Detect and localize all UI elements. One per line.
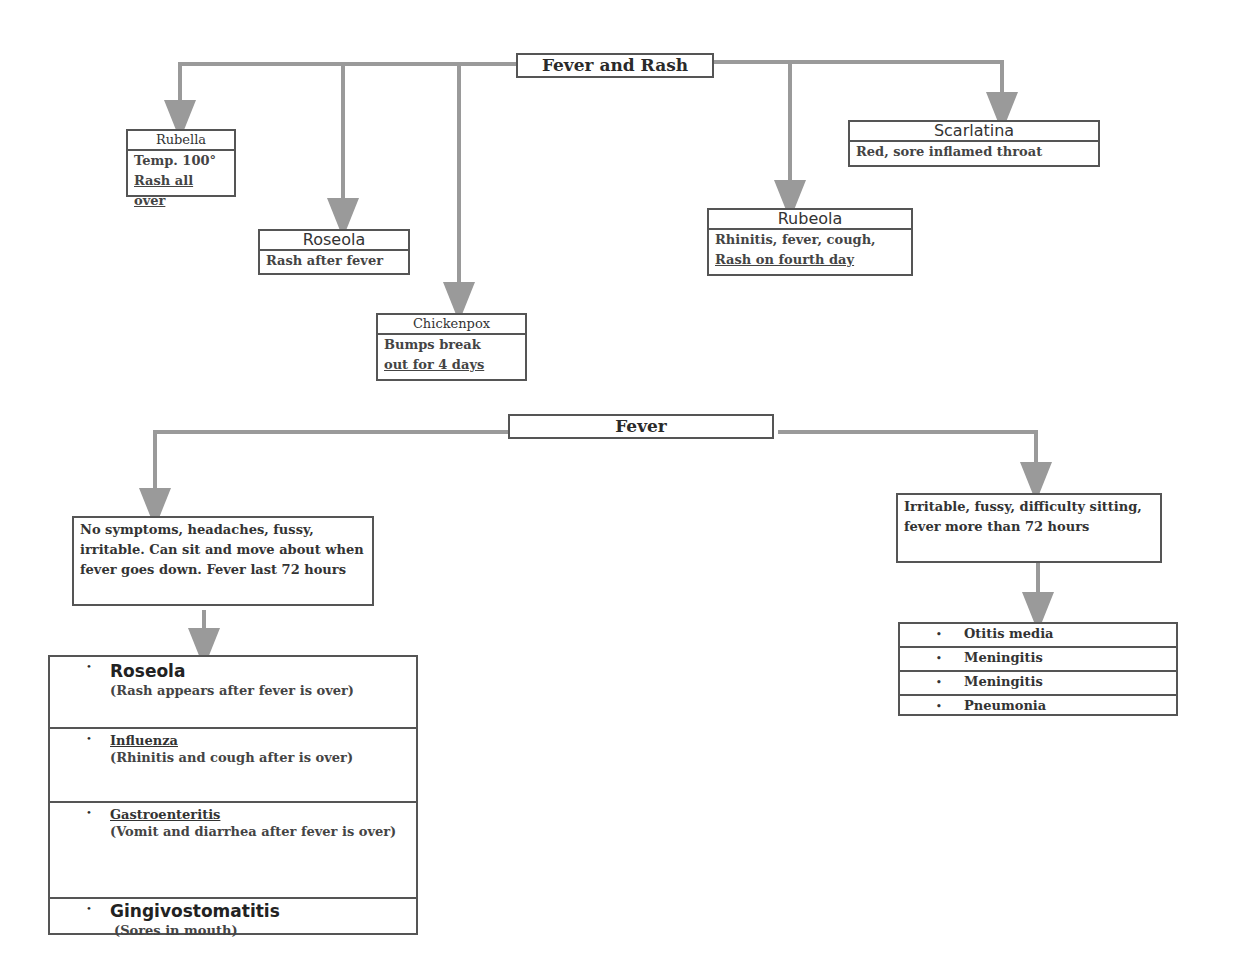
bullet-icon: •: [936, 624, 942, 644]
condition-desc: (Sores in mouth): [86, 921, 410, 941]
list-item: • Influenza (Rhinitis and cough after is…: [50, 729, 416, 803]
bullet-icon: •: [86, 903, 92, 914]
node-line: Red, sore inflamed throat: [850, 142, 1098, 162]
severe-fever-conditions-list: •Otitis media •Meningitis •Meningitis •P…: [898, 622, 1178, 716]
list-item: • Gastroenteritis (Vomit and diarrhea af…: [50, 803, 416, 899]
rubeola-node: Rubeola Rhinitis, fever, cough, Rash on …: [707, 208, 913, 276]
description-text: Irritable, fussy, difficulty sitting, fe…: [904, 499, 1142, 534]
node-title: Chickenpox: [378, 315, 525, 335]
condition-name: Meningitis: [964, 672, 1043, 692]
fever-and-rash-node: Fever and Rash: [516, 53, 714, 78]
condition-name: Influenza: [86, 733, 410, 748]
node-line: Rash on fourth day: [709, 250, 911, 270]
rubella-node: Rubella Temp. 100° Rash all over: [126, 129, 236, 197]
node-title: Fever and Rash: [542, 55, 688, 75]
roseola-node: Roseola Rash after fever: [258, 229, 410, 275]
node-line: Rash after fever: [260, 251, 408, 271]
node-title: Scarlatina: [850, 122, 1098, 142]
node-title: Rubella: [128, 131, 234, 151]
node-line: out for 4 days: [378, 355, 525, 375]
node-title: Roseola: [260, 231, 408, 251]
condition-name: Meningitis: [964, 648, 1043, 668]
description-text: No symptoms, headaches, fussy, irritable…: [80, 522, 364, 577]
list-item: •Meningitis: [900, 648, 1176, 672]
node-title: Fever: [615, 416, 667, 436]
bullet-icon: •: [936, 648, 942, 668]
node-line: Temp. 100°: [128, 151, 234, 171]
condition-desc: (Vomit and diarrhea after fever is over): [86, 822, 410, 842]
list-item: •Meningitis: [900, 672, 1176, 696]
node-title: Rubeola: [709, 210, 911, 230]
list-item: •Pneumonia: [900, 696, 1176, 718]
bullet-icon: •: [86, 733, 92, 744]
condition-name: Otitis media: [964, 624, 1054, 644]
chickenpox-node: Chickenpox Bumps break out for 4 days: [376, 313, 527, 381]
node-line: Bumps break: [378, 335, 525, 355]
condition-name: Pneumonia: [964, 696, 1046, 716]
bullet-icon: •: [86, 807, 92, 818]
mild-fever-description-node: No symptoms, headaches, fussy, irritable…: [72, 516, 374, 606]
condition-desc: (Rash appears after fever is over): [86, 681, 410, 701]
list-item: • Roseola (Rash appears after fever is o…: [50, 657, 416, 729]
node-line: Rhinitis, fever, cough,: [709, 230, 911, 250]
mild-fever-conditions-list: • Roseola (Rash appears after fever is o…: [48, 655, 418, 935]
condition-desc: (Rhinitis and cough after is over): [86, 748, 410, 768]
condition-name: Roseola: [86, 661, 410, 681]
bullet-icon: •: [936, 672, 942, 692]
condition-name: Gingivostomatitis: [86, 901, 410, 921]
bullet-icon: •: [86, 661, 92, 672]
scarlatina-node: Scarlatina Red, sore inflamed throat: [848, 120, 1100, 167]
list-item: • Gingivostomatitis (Sores in mouth): [50, 899, 416, 941]
severe-fever-description-node: Irritable, fussy, difficulty sitting, fe…: [896, 493, 1162, 563]
bullet-icon: •: [936, 696, 942, 716]
fever-node: Fever: [508, 414, 774, 439]
condition-name: Gastroenteritis: [86, 807, 410, 822]
node-line: Rash all over: [128, 171, 234, 211]
list-item: •Otitis media: [900, 624, 1176, 648]
